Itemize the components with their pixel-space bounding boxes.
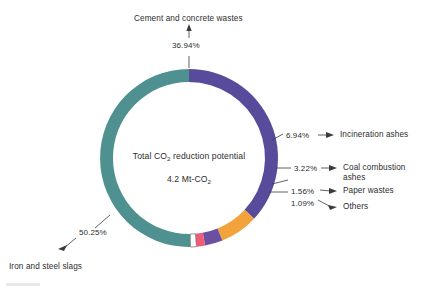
- leader-line-iron: [95, 215, 110, 228]
- center-caption-line1-text: Total CO2 reduction potential: [133, 151, 245, 161]
- value-label-others: 1.09%: [291, 199, 314, 208]
- label-incineration-ashes: Incineration ashes: [340, 130, 408, 141]
- center-caption-line2-text: 4.2 Mt-CO2: [167, 174, 211, 184]
- donut-chart-figure: Cement and concrete wastes Incineration …: [0, 0, 436, 291]
- value-label-coal-combustion-ashes: 3.22%: [294, 164, 317, 173]
- value-label-cement-and-concrete-wastes: 36.94%: [172, 41, 200, 50]
- slice-others[interactable]: [190, 234, 196, 247]
- label-coal-combustion-ashes-line1: Coal combustion: [343, 163, 405, 174]
- center-caption-line2: 4.2 Mt-CO2: [0, 174, 378, 184]
- donut-chart-svg: [0, 0, 436, 291]
- label-others: Others: [343, 202, 368, 213]
- arrow-down-left-iron: [58, 245, 67, 251]
- scan-artifact: [6, 283, 40, 286]
- label-cement-and-concrete-wastes: Cement and concrete wastes: [134, 14, 243, 25]
- label-paper-wastes: Paper wastes: [343, 186, 394, 197]
- slice-cement-and-concrete-wastes[interactable]: [189, 69, 278, 219]
- arrow-up-cement: [186, 24, 191, 31]
- value-label-iron-and-steel-slags: 50.25%: [79, 228, 107, 237]
- center-caption-line1: Total CO2 reduction potential: [0, 151, 378, 161]
- slice-incineration-ashes[interactable]: [218, 210, 255, 241]
- label-iron-and-steel-slags: Iron and steel slags: [9, 262, 82, 273]
- value-label-incineration-ashes: 6.94%: [286, 131, 309, 140]
- value-label-paper-wastes: 1.56%: [291, 187, 314, 196]
